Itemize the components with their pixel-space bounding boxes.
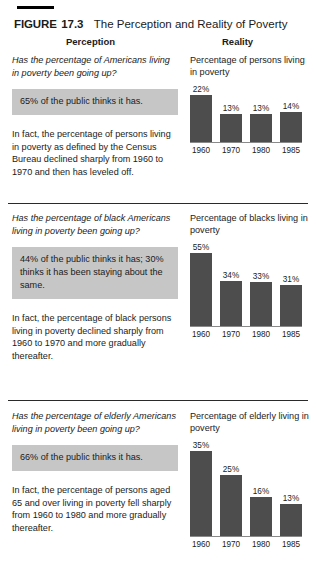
bar-rect [220,281,242,326]
bar-column: 13% [280,440,302,536]
bar-rect [190,451,212,536]
bar-value-label: 22% [193,85,209,94]
chart-caption: Percentage of persons living in poverty [190,54,312,78]
figure-header: FIGURE 17.3 The Perception and Reality o… [14,14,310,32]
bar-column: 33% [250,242,272,326]
bar-column: 25% [220,440,242,536]
bar-value-label: 16% [253,487,269,496]
bar-rect [220,475,242,536]
year-label-row: 1960197019801985 [190,540,312,550]
bar-value-label: 34% [223,271,239,280]
perception-highlight: 44% of the public thinks it has; 30% thi… [12,247,178,299]
year-label-row: 1960197019801985 [190,146,312,156]
year-label: 1970 [220,330,242,340]
bar-rect [190,253,212,326]
column-heading-reality: Reality [222,36,253,47]
perception-question: Has the percentage of Americans living i… [12,54,178,79]
bar-column: 16% [250,440,272,536]
section-divider [8,400,308,401]
figure-title: The Perception and Reality of Poverty [94,18,288,30]
chart-axis-line [190,536,302,537]
bar-value-label: 25% [223,465,239,474]
bar-rect [280,504,302,536]
reality-fact-text: In fact, the percentage of black persons… [12,312,178,362]
figure-label: FIGURE [14,18,57,30]
figure-top-rule [17,6,54,9]
bar-column: 35% [190,440,212,536]
reality-column: Percentage of persons living in poverty … [190,54,312,156]
year-label: 1960 [190,146,212,156]
bar-value-label: 13% [223,104,239,113]
bar-rect [250,497,272,536]
bar-rect [250,114,272,142]
bar-value-label: 31% [283,275,299,284]
year-label-row: 1960197019801985 [190,330,312,340]
bar-column: 13% [220,84,242,142]
bar-rect [280,112,302,142]
year-label: 1980 [250,330,272,340]
year-label: 1960 [190,540,212,550]
year-label: 1985 [280,540,302,550]
bar-column: 13% [250,84,272,142]
perception-question: Has the percentage of black Americans li… [12,212,178,237]
bar-column: 31% [280,242,302,326]
bar-value-label: 55% [193,243,209,252]
bar-value-label: 13% [283,494,299,503]
perception-column: Has the percentage of black Americans li… [12,212,178,363]
perception-column: Has the percentage of elderly Americans … [12,410,178,535]
figure-number: 17.3 [61,18,83,30]
chart-axis-line [190,326,302,327]
bar-column: 22% [190,84,212,142]
perception-highlight: 65% of the public thinks it has. [12,89,178,115]
year-label: 1980 [250,540,272,550]
bar-value-label: 33% [253,272,269,281]
bar-rect [220,114,242,142]
year-label: 1980 [250,146,272,156]
reality-fact-text: In fact, the percentage of persons livin… [12,128,178,178]
bar-column: 55% [190,242,212,326]
year-label: 1970 [220,540,242,550]
bar-value-label: 14% [283,102,299,111]
bar-group: 22%13%13%14% [190,84,312,142]
reality-column: Percentage of blacks living in poverty 5… [190,212,312,340]
column-heading-perception: Perception [66,36,115,47]
bar-rect [250,282,272,326]
bar-value-label: 13% [253,104,269,113]
bar-column: 34% [220,242,242,326]
poverty-bar-chart: 35%25%16%13% 1960197019801985 [190,440,312,550]
chart-axis-line [190,142,302,143]
year-label: 1985 [280,146,302,156]
bar-value-label: 35% [193,441,209,450]
section-divider [8,203,308,204]
perception-column: Has the percentage of Americans living i… [12,54,178,179]
poverty-bar-chart: 55%34%33%31% 1960197019801985 [190,242,312,340]
perception-highlight: 66% of the public thinks it has. [12,445,178,471]
year-label: 1985 [280,330,302,340]
poverty-bar-chart: 22%13%13%14% 1960197019801985 [190,84,312,156]
reality-fact-text: In fact, the percentage of persons aged … [12,484,178,534]
perception-question: Has the percentage of elderly Americans … [12,410,178,435]
chart-caption: Percentage of elderly living in poverty [190,410,312,434]
bar-rect [280,285,302,326]
bar-column: 14% [280,84,302,142]
reality-column: Percentage of elderly living in poverty … [190,410,312,550]
bar-rect [190,95,212,142]
year-label: 1960 [190,330,212,340]
chart-caption: Percentage of blacks living in poverty [190,212,312,236]
bar-group: 55%34%33%31% [190,242,312,326]
bar-group: 35%25%16%13% [190,440,312,536]
year-label: 1970 [220,146,242,156]
